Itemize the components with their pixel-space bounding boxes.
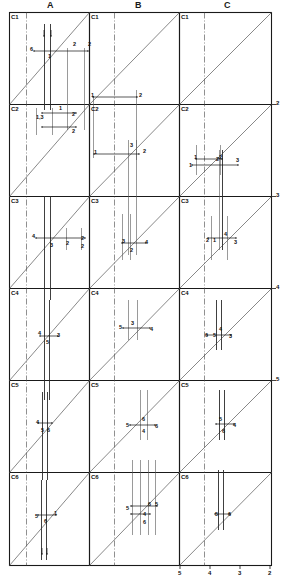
point-label-c-11: 4 (219, 327, 222, 333)
point-label-c-6: 1 (213, 238, 216, 244)
point-label-a-20: 6 (44, 519, 47, 525)
point-label-b-15: 5 (126, 506, 129, 512)
point-label-b-17: 5 (155, 502, 158, 508)
projection-lines-b (94, 90, 156, 535)
point-label-c-16: 5 (215, 512, 218, 518)
point-label-b-13: 4 (142, 429, 145, 435)
point-label-b-0: 1 (91, 93, 94, 99)
point-label-a-9: 3 (50, 243, 53, 249)
point-label-a-11: 2 (81, 236, 84, 242)
point-label-a-0: 6 (30, 47, 33, 53)
point-label-c-1: 2 (219, 155, 222, 161)
point-label-c-5: 2 (206, 238, 209, 244)
axis-ticks (180, 105, 276, 570)
cell-id-b-c6: C6 (91, 474, 99, 480)
cell-id-b-c5: C5 (91, 382, 99, 388)
cell-id-a-c6: C6 (11, 474, 19, 480)
point-label-a-14: 5 (46, 340, 49, 346)
cell-id-c-c6: C6 (181, 474, 189, 480)
point-label-a-1: 1 (48, 54, 51, 60)
point-label-a-18: 6 (47, 428, 50, 434)
point-label-a-8: 4 (32, 234, 35, 240)
point-label-b-7: 4 (145, 240, 148, 246)
point-label-a-15: 3 (57, 333, 60, 339)
point-label-a-12: 2 (81, 244, 84, 250)
point-label-b-3: 3 (130, 143, 133, 149)
cell-id-b-c3: C3 (91, 198, 99, 204)
point-label-b-9: 3 (131, 321, 134, 327)
bottom-axis-tick-3: 3 (238, 570, 241, 576)
point-label-a-3: 2 (88, 42, 91, 48)
point-label-b-8: 5 (119, 325, 122, 331)
cell-id-c-c4: C4 (181, 290, 189, 296)
point-label-a-6: 2 (72, 112, 75, 118)
diagram-page: .frame{stroke:#1a1a1a;stroke-width:1.1;f… (0, 0, 281, 579)
cell-id-b-c2: C2 (91, 106, 99, 112)
cell-id-b-c1: C1 (91, 14, 99, 20)
point-label-c-9: 6 (205, 333, 208, 339)
point-label-a-5: 1 (59, 106, 62, 112)
cell-id-a-c5: C5 (11, 382, 19, 388)
point-label-b-18: 4 (143, 512, 146, 518)
right-axis-tick-3: 3 (276, 192, 279, 198)
point-label-c-2: 1 (189, 163, 192, 169)
measure-lines (34, 30, 238, 554)
point-label-c-4: 3 (236, 158, 239, 164)
column-header-b: B (135, 0, 142, 10)
right-axis-tick-5: 5 (276, 376, 279, 382)
column-header-c: C (224, 0, 231, 10)
point-label-a-13: 4 (38, 331, 41, 337)
point-label-c-3: 2 (216, 157, 219, 163)
column-header-a: A (47, 0, 54, 10)
point-label-c-0: 1 (194, 155, 197, 161)
cell-id-a-c1: C1 (11, 14, 19, 20)
point-label-b-2: 1 (94, 150, 97, 156)
cell-id-a-c3: C3 (11, 198, 19, 204)
point-label-a-17: 5 (41, 428, 44, 434)
point-label-a-16: 4 (36, 420, 39, 426)
bottom-axis-tick-4: 4 (208, 570, 211, 576)
point-label-c-8: 3 (234, 240, 237, 246)
point-label-a-10: 2 (66, 241, 69, 247)
point-label-a-4: 1,3 (36, 115, 44, 121)
point-label-b-6: 2 (130, 248, 133, 254)
point-label-c-13: 5 (219, 417, 222, 423)
bottom-axis-tick-5: 5 (178, 570, 181, 576)
bottom-axis-tick-2: 2 (268, 570, 271, 576)
diagram-canvas: .frame{stroke:#1a1a1a;stroke-width:1.1;f… (0, 0, 281, 579)
point-label-b-19: 6 (143, 520, 146, 526)
cell-id-b-c4: C4 (91, 290, 99, 296)
right-axis-tick-2: 2 (276, 100, 279, 106)
point-label-b-5: 3 (122, 239, 125, 245)
point-label-b-14: 6 (155, 424, 158, 430)
cell-id-c-c5: C5 (181, 382, 189, 388)
point-label-b-11: 5 (126, 423, 129, 429)
point-label-c-10: 5 (213, 333, 216, 339)
cell-id-a-c2: C2 (11, 106, 19, 112)
point-label-c-7: 4 (224, 232, 227, 238)
point-label-b-16: 6 (148, 502, 151, 508)
point-label-a-21: 1 (54, 511, 57, 517)
cell-id-a-c4: C4 (11, 290, 19, 296)
point-label-c-12: 3 (229, 334, 232, 340)
point-label-b-1: 2 (139, 93, 142, 99)
point-label-a-2: 2 (73, 42, 76, 48)
point-label-b-4: 2 (143, 149, 146, 155)
point-label-b-10: 4 (150, 327, 153, 333)
cell-id-c-c1: C1 (181, 14, 189, 20)
right-axis-tick-4: 4 (276, 284, 279, 290)
point-label-c-14: 6 (222, 429, 225, 435)
cell-id-c-c2: C2 (181, 106, 189, 112)
point-label-b-12: 6 (142, 417, 145, 423)
point-label-c-17: 6 (228, 512, 231, 518)
point-label-a-19: 5 (35, 514, 38, 520)
point-label-c-15: 4 (233, 423, 236, 429)
point-label-a-7: 2 (72, 129, 75, 135)
cell-id-c-c3: C3 (181, 198, 189, 204)
